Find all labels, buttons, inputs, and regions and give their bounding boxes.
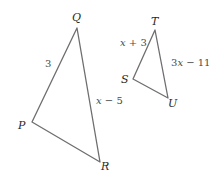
side-label-st: x + 3 [120,37,147,48]
side-label-qr-rest: − 5 [102,95,123,106]
side-label-tu-rest: − 11 [183,57,210,68]
triangle-stu: T S U x + 3 3x − 11 [120,15,210,110]
vertex-label-s: S [121,73,129,86]
vertex-label-r: R [100,160,109,173]
side-label-tu: 3x − 11 [171,57,210,68]
vertex-label-u: U [168,97,178,110]
side-label-st-rest: + 3 [126,37,147,48]
side-label-qr: x − 5 [96,95,123,106]
triangle-pqr: Q P R 3 x − 5 [17,11,123,173]
vertex-label-q: Q [72,11,81,24]
similar-triangles-diagram: Q P R 3 x − 5 T S U x + 3 3x − 11 [0,0,220,188]
vertex-label-p: P [17,119,26,132]
vertex-label-t: T [151,15,160,28]
triangle-pqr-outline [32,28,100,162]
side-label-pq: 3 [45,58,51,69]
